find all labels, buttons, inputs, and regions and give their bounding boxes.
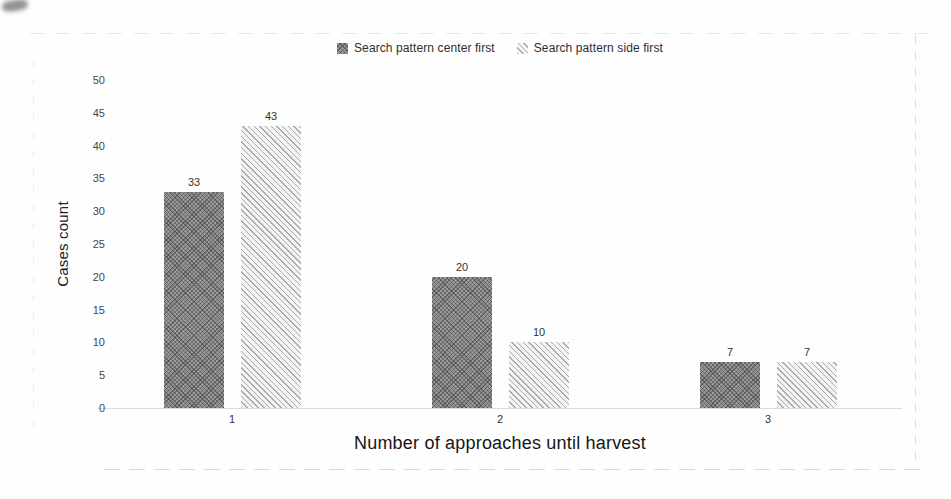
scan-border-right xyxy=(915,35,916,460)
bar-value-label: 43 xyxy=(241,110,301,122)
scan-smudge xyxy=(1,0,28,13)
scan-border-bottom xyxy=(104,469,922,470)
diagonal-hatch-swatch-icon xyxy=(517,43,528,54)
x-axis-title: Number of approaches until harvest xyxy=(98,433,902,454)
bar-center-first xyxy=(700,362,760,408)
y-tick-label: 25 xyxy=(60,237,105,251)
legend-item-center-first: Search pattern center first xyxy=(337,41,495,55)
bar-value-label: 20 xyxy=(432,261,492,273)
y-tick-label: 10 xyxy=(60,335,105,349)
x-axis-line xyxy=(98,408,902,409)
bar-side-first xyxy=(509,342,569,408)
y-tick-label: 40 xyxy=(60,139,105,153)
y-tick-label: 0 xyxy=(60,401,105,415)
legend: Search pattern center first Search patte… xyxy=(98,41,902,55)
legend-label-center-first: Search pattern center first xyxy=(354,41,495,55)
bar-center-first xyxy=(432,277,492,408)
legend-label-side-first: Search pattern side first xyxy=(534,41,663,55)
bar-value-label: 33 xyxy=(164,176,224,188)
x-category-label: 2 xyxy=(470,413,530,425)
bar-value-label: 7 xyxy=(777,346,837,358)
crosshatch-swatch-icon xyxy=(337,43,348,54)
bar-value-label: 10 xyxy=(509,326,569,338)
legend-item-side-first: Search pattern side first xyxy=(517,41,663,55)
x-category-label: 1 xyxy=(202,413,262,425)
x-category-label: 3 xyxy=(738,413,798,425)
y-tick-label: 50 xyxy=(60,73,105,87)
y-tick-label: 30 xyxy=(60,204,105,218)
bar-side-first xyxy=(241,126,301,408)
y-tick-label: 20 xyxy=(60,270,105,284)
scanned-bar-chart-figure: Search pattern center first Search patte… xyxy=(0,0,951,499)
y-tick-label: 5 xyxy=(60,368,105,382)
y-tick-label: 45 xyxy=(60,106,105,120)
bar-center-first xyxy=(164,192,224,408)
y-tick-label: 15 xyxy=(60,303,105,317)
scan-border-left xyxy=(33,60,34,430)
y-tick-label: 35 xyxy=(60,171,105,185)
bar-side-first xyxy=(777,362,837,408)
scan-border-top xyxy=(30,33,931,34)
bar-value-label: 7 xyxy=(700,346,760,358)
